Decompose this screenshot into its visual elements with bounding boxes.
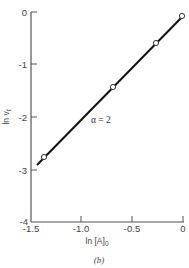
data-point (153, 40, 158, 45)
x-ticks (81, 216, 183, 222)
x-axis-label: ln [A]0 (86, 236, 109, 247)
chart: 0 -1 -2 -3 -4 -1.5 -1.0 -0.5 0 α = 2 ln … (0, 0, 189, 268)
xtick-label: -1.5 (23, 223, 39, 234)
y-axis-label: ln vt (1, 108, 12, 124)
y-ticks (31, 12, 37, 170)
figure-caption: (b) (94, 255, 105, 265)
xtick-label: 0 (180, 223, 185, 234)
ytick-label: -3 (19, 165, 27, 176)
data-point (179, 13, 184, 18)
ytick-label: 0 (22, 7, 27, 18)
xtick-label: -1.0 (73, 223, 89, 234)
fit-line (37, 16, 183, 165)
data-point (110, 84, 115, 89)
ytick-label: -1 (19, 59, 27, 70)
xtick-label: -0.5 (124, 223, 140, 234)
slope-annotation: α = 2 (91, 115, 111, 125)
ytick-label: -2 (19, 112, 27, 123)
data-point (41, 154, 46, 159)
